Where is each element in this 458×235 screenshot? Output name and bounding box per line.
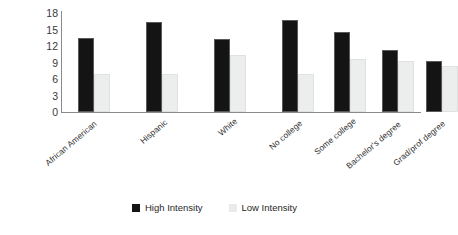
bar-high-intensity: [426, 61, 442, 112]
bar-low-intensity: [162, 74, 178, 113]
bar-low-intensity: [94, 74, 110, 113]
bar-group: [334, 13, 366, 112]
plot-area: [62, 13, 420, 112]
chart-legend: High IntensityLow Intensity: [0, 203, 429, 213]
bar-group: [426, 13, 458, 112]
y-axis-tick-label: 15: [46, 25, 58, 35]
x-axis-category-labels: African AmericanHispanicWhiteNo collegeS…: [0, 112, 429, 192]
bar-high-intensity: [334, 32, 350, 112]
x-axis-category-label: Some college: [312, 116, 358, 157]
y-axis-tick-label: 6: [52, 74, 58, 84]
legend-label: Low Intensity: [242, 203, 297, 213]
x-axis-category-label: White: [216, 116, 239, 138]
x-axis-category-label: No college: [267, 118, 304, 152]
y-axis-tick-label: 9: [52, 58, 58, 68]
legend-item[interactable]: High Intensity: [132, 203, 203, 213]
bar-high-intensity: [214, 39, 230, 112]
x-axis-category-label: African American: [43, 119, 99, 168]
y-axis-tick-labels: 0369121518: [30, 0, 58, 125]
bar-group: [214, 13, 246, 112]
bar-low-intensity: [230, 55, 246, 112]
bar-high-intensity: [382, 50, 398, 112]
bar-group: [282, 13, 314, 112]
bar-high-intensity: [78, 38, 94, 112]
light-square-swatch: [229, 204, 237, 212]
bar-high-intensity: [146, 22, 162, 112]
x-axis-category-label: Hispanic: [138, 117, 169, 146]
y-axis-tick-label: 18: [46, 8, 58, 18]
bar-group: [78, 13, 110, 112]
bar-group: [382, 13, 414, 112]
bar-low-intensity: [298, 74, 314, 113]
y-axis-tick-label: 3: [52, 91, 58, 101]
bar-low-intensity: [350, 59, 366, 112]
bar-group: [146, 13, 178, 112]
dark-square-swatch: [132, 204, 140, 212]
legend-item[interactable]: Low Intensity: [229, 203, 297, 213]
bar-low-intensity: [442, 66, 458, 112]
y-axis-tick-label: 12: [46, 41, 58, 51]
bar-low-intensity: [398, 61, 414, 112]
legend-label: High Intensity: [145, 203, 203, 213]
bar-high-intensity: [282, 20, 298, 112]
